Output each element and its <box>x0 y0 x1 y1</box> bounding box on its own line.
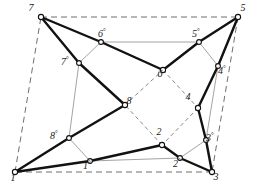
vertex-label-n5: 5 <box>241 3 246 13</box>
vertex-label-text-n1: 1 <box>11 172 16 183</box>
thick-edge-n6p-n6 <box>101 42 163 70</box>
vertex-marker-n7p[interactable] <box>77 61 82 66</box>
prime-mark-n1p: ° <box>88 159 91 167</box>
thick-edge-n3-n2p <box>180 158 212 172</box>
vertex-label-text-n2: 2 <box>157 126 162 137</box>
prime-mark-n4p: ° <box>223 64 226 72</box>
inner-edge-n6-n4 <box>163 70 198 108</box>
vertex-label-n1p: 1° <box>83 160 91 171</box>
vertex-label-n2: 2 <box>157 127 162 137</box>
vertex-label-n4: 4 <box>186 92 191 102</box>
vertex-label-text-n8: 8 <box>127 95 132 106</box>
vertex-marker-n4[interactable] <box>195 105 200 110</box>
thick-edge-n7p-n8 <box>79 63 125 105</box>
geometric-diagram: 135724681°2°3°4°5°6°7°8° <box>0 0 258 188</box>
vertex-label-n6p: 6° <box>98 28 106 39</box>
vertex-label-text-n4: 4 <box>186 91 191 102</box>
thick-edge-n8p-n8 <box>69 105 125 138</box>
prime-mark-n2p: ° <box>178 157 181 165</box>
thick-edge-n1-n1p <box>15 161 90 172</box>
vertex-label-text-n3: 3 <box>214 171 219 182</box>
diagram-canvas <box>0 0 258 188</box>
thin-edge-n7p-n8p <box>69 63 79 138</box>
prime-mark-n3p: ° <box>211 131 214 139</box>
vertex-label-n7: 7 <box>29 3 34 13</box>
thick-edge-n3p-n4 <box>198 108 206 140</box>
vertex-label-n1: 1 <box>11 173 16 183</box>
thin-connector-edges <box>69 42 218 161</box>
thin-edge-n6p-n7p <box>79 42 101 63</box>
prime-mark-n6p: ° <box>103 27 106 35</box>
prime-mark-n8p: ° <box>55 129 58 137</box>
inner-edge-n4-n2 <box>162 108 198 145</box>
vertex-marker-n6p[interactable] <box>99 40 104 45</box>
vertex-label-n3: 3 <box>214 172 219 182</box>
outer-edge-n5-n3 <box>212 17 238 172</box>
outer-edge-n1-n7 <box>15 17 41 172</box>
vertex-marker-n8p[interactable] <box>67 136 72 141</box>
vertex-label-n7p: 7° <box>61 56 69 67</box>
thick-edge-n3-n3p <box>206 140 212 172</box>
vertex-label-text-n5: 5 <box>241 2 246 13</box>
thin-edge-n5p-n4p <box>199 42 218 66</box>
vertex-marker-n2[interactable] <box>159 142 164 147</box>
thick-edge-n5p-n6 <box>163 42 199 70</box>
vertex-marker-n5p[interactable] <box>197 40 202 45</box>
vertex-label-n8: 8 <box>127 96 132 106</box>
prime-mark-n5p: ° <box>197 27 200 35</box>
vertex-marker-n7[interactable] <box>38 14 43 19</box>
inner-quadrilateral-edges <box>125 70 198 145</box>
thin-edge-n2p-n3p <box>180 140 206 158</box>
thick-edge-n4p-n4 <box>198 66 218 108</box>
vertex-label-text-n7: 7 <box>29 2 34 13</box>
vertex-marker-n5[interactable] <box>235 14 240 19</box>
vertex-label-n3p: 3° <box>206 132 214 143</box>
vertex-label-n4p: 4° <box>218 65 226 76</box>
vertex-label-n6: 6 <box>158 69 163 79</box>
prime-mark-n7p: ° <box>66 55 69 63</box>
thin-edge-n1p-n8p <box>69 138 90 161</box>
inner-edge-n2-n8 <box>125 105 162 145</box>
vertex-label-n8p: 8° <box>50 130 58 141</box>
vertex-label-text-n6: 6 <box>158 68 163 79</box>
vertex-label-n5p: 5° <box>192 28 200 39</box>
vertex-label-n2p: 2° <box>173 158 181 169</box>
